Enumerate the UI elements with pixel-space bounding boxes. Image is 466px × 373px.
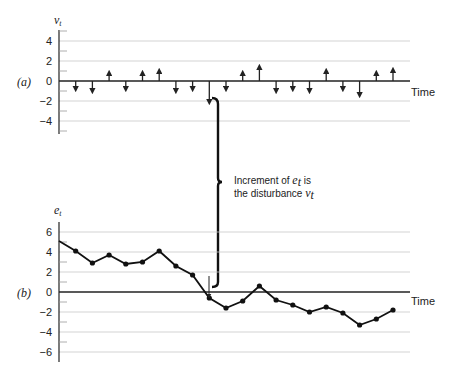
- panel-a-disturbance-chart: 420−2−4 vt (a) Time: [17, 13, 435, 134]
- y-tick-label: 4: [46, 35, 52, 47]
- data-point: [207, 295, 212, 300]
- panel-b-y-label: et: [54, 203, 62, 218]
- data-point: [290, 302, 295, 307]
- data-point: [390, 307, 395, 312]
- y-tick-label: −6: [39, 346, 52, 358]
- data-point: [107, 252, 112, 257]
- panel-b-time-label: Time: [411, 295, 435, 307]
- y-tick-label: −2: [39, 95, 52, 107]
- y-tick-label: 0: [46, 286, 52, 298]
- y-tick-label: 6: [46, 226, 52, 238]
- panel-a-time-label: Time: [411, 86, 435, 98]
- data-point: [123, 261, 128, 266]
- data-point: [374, 316, 379, 321]
- data-point: [73, 248, 78, 253]
- data-point: [190, 272, 195, 277]
- data-point: [157, 248, 162, 253]
- annotation-text: Increment of et is the disturbance vt: [234, 173, 315, 202]
- data-point: [257, 283, 262, 288]
- data-point: [223, 305, 228, 310]
- data-point: [173, 263, 178, 268]
- data-point: [140, 259, 145, 264]
- y-tick-label: −4: [39, 115, 52, 127]
- panel-b-label: (b): [17, 286, 31, 300]
- y-tick-label: 2: [46, 55, 52, 67]
- y-tick-label: 2: [46, 266, 52, 278]
- data-point: [274, 297, 279, 302]
- data-point: [357, 322, 362, 327]
- data-point: [340, 310, 345, 315]
- panel-b-series-chart: 6420−2−4−6 et (b) Time: [17, 203, 435, 362]
- increment-bracket: [212, 98, 222, 287]
- panel-a-disturbance-arrows: [76, 67, 393, 102]
- panel-a-label: (a): [17, 75, 31, 89]
- data-point: [307, 309, 312, 314]
- y-tick-label: −2: [39, 306, 52, 318]
- chart-canvas: 420−2−4 vt (a) Time Increment of et is t…: [0, 0, 466, 373]
- y-tick-label: 4: [46, 246, 52, 258]
- y-tick-label: 0: [46, 75, 52, 87]
- y-tick-label: −4: [39, 326, 52, 338]
- data-point: [240, 298, 245, 303]
- data-point: [90, 260, 95, 265]
- data-point: [324, 304, 329, 309]
- panel-a-y-label: vt: [54, 13, 62, 28]
